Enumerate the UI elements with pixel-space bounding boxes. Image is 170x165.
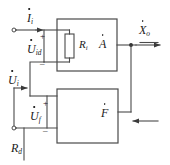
feedback-block-label: F <box>101 107 108 119</box>
differential-voltage-label: Uid <box>27 43 41 57</box>
polarity-minus-top: _ <box>40 57 45 66</box>
polarity-minus-bottom: _ <box>43 124 48 133</box>
input-terminal-bottom <box>12 126 16 130</box>
amplifier-block-label: A <box>99 38 106 50</box>
input-terminal-top <box>12 28 16 32</box>
input-resistance-label: Ri <box>79 39 88 52</box>
output-signal-label: Xo <box>139 24 150 38</box>
uid-to-sum-wire <box>30 62 44 96</box>
feedback-voltage-label: Uf <box>30 110 41 124</box>
input-resistance-rect <box>65 34 74 58</box>
input-voltage-label: Ui <box>8 74 19 88</box>
input-current-label: Ii <box>27 12 33 26</box>
source-resistance-label: Rd <box>11 142 22 156</box>
feedback-block-rect <box>57 89 118 143</box>
polarity-plus-bottom: + <box>43 99 48 108</box>
circuit-diagram: Ii Uid Ui Uf Rd Ri A F Xo + _ + _ <box>0 0 170 165</box>
polarity-plus-top: + <box>40 32 45 41</box>
